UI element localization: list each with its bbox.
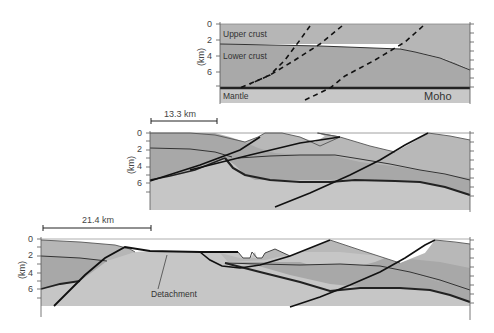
label-mantle: Mantle: [223, 91, 249, 101]
label-upper-crust: Upper crust: [223, 29, 268, 39]
middle-axis-label: (km): [126, 156, 136, 174]
detachment-label: Detachment: [151, 289, 197, 299]
middle-tick-4: 4: [137, 161, 142, 171]
label-moho: Moho: [424, 90, 452, 102]
bottom-axis-label: (km): [17, 261, 27, 279]
geological-cross-sections: 0 2 4 6 (km) Upper crust Lower crust Man…: [0, 0, 494, 333]
bottom-tick-6: 6: [28, 284, 33, 294]
top-tick-0: 0: [207, 19, 212, 29]
middle-tick-0: 0: [137, 128, 142, 138]
top-axis-label: (km): [196, 48, 206, 66]
panel-bottom: [37, 225, 474, 320]
label-lower-crust: Lower crust: [223, 51, 268, 61]
panel-middle: [146, 118, 474, 212]
middle-scale-bar-label: 13.3 km: [164, 109, 196, 119]
bottom-tick-0: 0: [28, 234, 33, 244]
top-tick-2: 2: [207, 35, 212, 45]
bottom-tick-4: 4: [28, 268, 33, 278]
top-tick-6: 6: [207, 67, 212, 77]
middle-tick-6: 6: [137, 178, 142, 188]
middle-tick-2: 2: [137, 144, 142, 154]
top-tick-4: 4: [207, 51, 212, 61]
bottom-scale-bar-label: 21.4 km: [82, 215, 114, 225]
bottom-tick-2: 2: [28, 250, 33, 260]
